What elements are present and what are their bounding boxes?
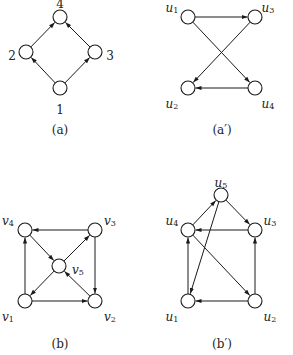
node-label-v3: v3 bbox=[104, 214, 116, 229]
edge-1-to-2 bbox=[31, 57, 55, 82]
node-label-subscript: 2 bbox=[173, 102, 178, 111]
graph-diagram-canvas: 1234(a) u1u3u2u4(a′) v1v2v3v4v5(b) u1u2u… bbox=[0, 0, 293, 355]
node-label-subscript: 2 bbox=[111, 315, 116, 324]
node-u4 bbox=[248, 81, 262, 95]
node-u4 bbox=[181, 223, 195, 237]
node-label-1: 1 bbox=[56, 103, 64, 117]
node-3 bbox=[88, 45, 102, 59]
node-u5 bbox=[214, 188, 228, 202]
node-4 bbox=[53, 10, 67, 24]
edge-v5-to-v1 bbox=[30, 271, 54, 296]
node-label-subscript: 3 bbox=[271, 219, 276, 228]
node-u3 bbox=[248, 223, 262, 237]
node-v1 bbox=[18, 294, 32, 308]
edge-u4-to-u2 bbox=[193, 235, 250, 295]
node-u1 bbox=[181, 10, 195, 24]
node-label-subscript: 1 bbox=[173, 315, 178, 324]
graph-b-prime: u1u2u3u4u5(b′) bbox=[166, 176, 277, 351]
node-label-subscript: 1 bbox=[9, 315, 14, 324]
node-v2 bbox=[88, 294, 102, 308]
caption-b-prime: (b′) bbox=[212, 337, 232, 351]
node-v5 bbox=[52, 259, 66, 273]
node-label-subscript: 3 bbox=[111, 219, 116, 228]
node-v3 bbox=[88, 223, 102, 237]
node-v4 bbox=[18, 223, 32, 237]
node-label-4: 4 bbox=[56, 0, 64, 11]
node-label-subscript: 3 bbox=[269, 6, 274, 15]
node-label-u1: u1 bbox=[166, 310, 179, 325]
node-u1 bbox=[181, 294, 195, 308]
node-label-v4: v4 bbox=[2, 214, 14, 229]
node-label-v1: v1 bbox=[2, 310, 14, 325]
edge-1-to-3 bbox=[65, 57, 90, 83]
node-label-u4: u4 bbox=[262, 97, 275, 112]
node-label-u2: u2 bbox=[264, 310, 277, 325]
node-u3 bbox=[248, 10, 262, 24]
node-label-v2: v2 bbox=[104, 310, 116, 325]
node-u2 bbox=[181, 81, 195, 95]
node-label-u3: u3 bbox=[262, 1, 275, 16]
node-2 bbox=[19, 45, 33, 59]
node-1 bbox=[53, 81, 67, 95]
node-label-u3: u3 bbox=[264, 214, 277, 229]
node-label-subscript: 5 bbox=[222, 181, 227, 190]
node-label-subscript: 2 bbox=[271, 315, 276, 324]
node-label-3: 3 bbox=[106, 49, 114, 63]
caption-a-prime: (a′) bbox=[212, 123, 231, 137]
node-label-subscript: 4 bbox=[269, 102, 274, 111]
edge-2-to-4 bbox=[31, 22, 55, 47]
node-label-u1: u1 bbox=[166, 1, 179, 16]
node-label-u5: u5 bbox=[215, 176, 228, 191]
graph-a: 1234(a) bbox=[8, 0, 114, 137]
caption-b: (b) bbox=[51, 337, 68, 351]
node-label-subscript: 4 bbox=[173, 219, 178, 228]
node-label-v5: v5 bbox=[72, 263, 84, 278]
graph-b: v1v2v3v4v5(b) bbox=[2, 214, 116, 351]
node-label-u4: u4 bbox=[166, 214, 179, 229]
caption-a: (a) bbox=[52, 123, 69, 137]
node-label-subscript: 5 bbox=[79, 268, 84, 277]
edge-u5-to-u3 bbox=[226, 200, 250, 225]
edge-v5-to-v3 bbox=[64, 235, 90, 261]
node-label-subscript: 4 bbox=[9, 219, 14, 228]
node-u2 bbox=[248, 294, 262, 308]
node-label-2: 2 bbox=[8, 49, 16, 63]
node-label-u2: u2 bbox=[166, 97, 179, 112]
graph-a-prime: u1u3u2u4(a′) bbox=[166, 1, 275, 137]
edge-v4-to-v5 bbox=[30, 235, 54, 260]
node-label-subscript: 1 bbox=[173, 6, 178, 15]
edge-3-to-4 bbox=[65, 22, 90, 47]
